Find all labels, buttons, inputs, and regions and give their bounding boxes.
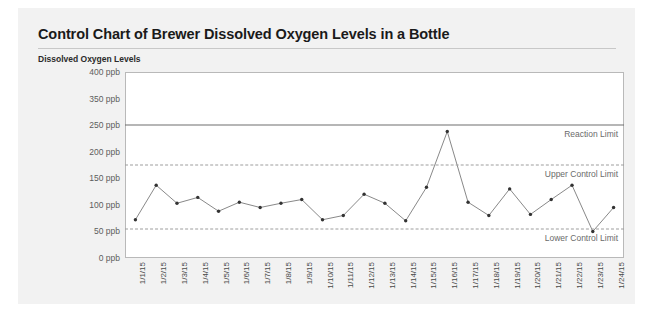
x-axis-tick-label: 1/15/15 — [429, 262, 438, 289]
x-axis-tick-label: 1/9/15 — [305, 262, 314, 284]
x-axis-tick-label: 1/16/15 — [450, 262, 459, 289]
x-axis-tick-label: 1/6/15 — [242, 262, 251, 284]
chart-card: Control Chart of Brewer Dissolved Oxygen… — [18, 8, 635, 304]
x-axis-tick-label: 1/18/15 — [492, 262, 501, 289]
x-axis-tick-label: 1/3/15 — [180, 262, 189, 284]
data-point-marker — [466, 201, 469, 204]
title-divider — [38, 48, 616, 49]
y-axis-tick-label: 100 ppb — [89, 200, 120, 210]
x-axis-tick-label: 1/14/15 — [409, 262, 418, 289]
data-point-marker — [570, 183, 573, 186]
data-point-marker — [487, 214, 490, 217]
data-point-marker — [612, 206, 615, 209]
x-axis-tick-label: 1/8/15 — [284, 262, 293, 284]
x-axis-tick-label: 1/1/15 — [138, 262, 147, 284]
x-axis-tick-label: 1/17/15 — [471, 262, 480, 289]
data-point-marker — [383, 202, 386, 205]
x-axis-tick-label: 1/19/15 — [513, 262, 522, 289]
x-axis-tick-label: 1/5/15 — [222, 262, 231, 284]
x-axis-tick-label: 1/12/15 — [367, 262, 376, 289]
x-axis-tick-label: 1/13/15 — [388, 262, 397, 289]
y-axis-tick-label: 50 ppb — [94, 226, 120, 236]
data-point-marker — [196, 196, 199, 199]
reference-line — [125, 125, 624, 126]
x-axis-tick-label: 1/4/15 — [201, 262, 210, 284]
x-axis-tick-label: 1/2/15 — [159, 262, 168, 284]
reference-line-label: Lower Control Limit — [545, 233, 618, 243]
data-point-marker — [134, 218, 137, 221]
x-axis-tick-label: 1/10/15 — [326, 262, 335, 289]
data-point-marker — [529, 213, 532, 216]
data-point-marker — [258, 206, 261, 209]
data-point-marker — [238, 201, 241, 204]
data-point-marker — [508, 187, 511, 190]
reference-line — [125, 165, 624, 166]
y-axis: 400 ppb350 ppb250 ppb200 ppb150 ppb100 p… — [58, 72, 120, 258]
data-point-marker — [425, 186, 428, 189]
x-axis-tick-label: 1/20/15 — [533, 262, 542, 289]
y-axis-tick-label: 150 ppb — [89, 173, 120, 183]
y-axis-tick-label: 200 ppb — [89, 147, 120, 157]
reference-line-label: Upper Control Limit — [545, 169, 618, 179]
plot-wrapper: Reaction LimitUpper Control LimitLower C… — [125, 72, 624, 258]
y-axis-tick-label: 350 ppb — [89, 94, 120, 104]
data-point-marker — [342, 214, 345, 217]
data-point-marker — [550, 198, 553, 201]
page-title: Control Chart of Brewer Dissolved Oxygen… — [38, 26, 616, 42]
data-point-marker — [362, 193, 365, 196]
x-axis: 1/1/151/2/151/3/151/4/151/5/151/6/151/7/… — [125, 262, 624, 308]
data-point-marker — [404, 219, 407, 222]
data-point-marker — [217, 210, 220, 213]
data-point-marker — [154, 183, 157, 186]
x-axis-tick-label: 1/23/15 — [596, 262, 605, 289]
x-axis-tick-label: 1/11/15 — [346, 262, 355, 288]
x-axis-tick-label: 1/24/15 — [617, 262, 626, 289]
data-point-marker — [175, 202, 178, 205]
reference-line — [125, 228, 624, 229]
y-axis-tick-label: 400 ppb — [89, 67, 120, 77]
series-line — [135, 132, 613, 232]
x-axis-tick-label: 1/22/15 — [575, 262, 584, 289]
reference-line-label: Reaction Limit — [564, 129, 618, 139]
x-axis-tick-label: 1/21/15 — [554, 262, 563, 289]
x-axis-tick-label: 1/7/15 — [263, 262, 272, 284]
data-point-marker — [321, 218, 324, 221]
y-axis-tick-label: 250 ppb — [89, 120, 120, 130]
y-axis-tick-label: 0 ppb — [99, 253, 120, 263]
chart-subtitle: Dissolved Oxygen Levels — [38, 54, 141, 64]
data-point-marker — [279, 202, 282, 205]
data-point-marker — [300, 198, 303, 201]
data-point-marker — [446, 130, 449, 133]
